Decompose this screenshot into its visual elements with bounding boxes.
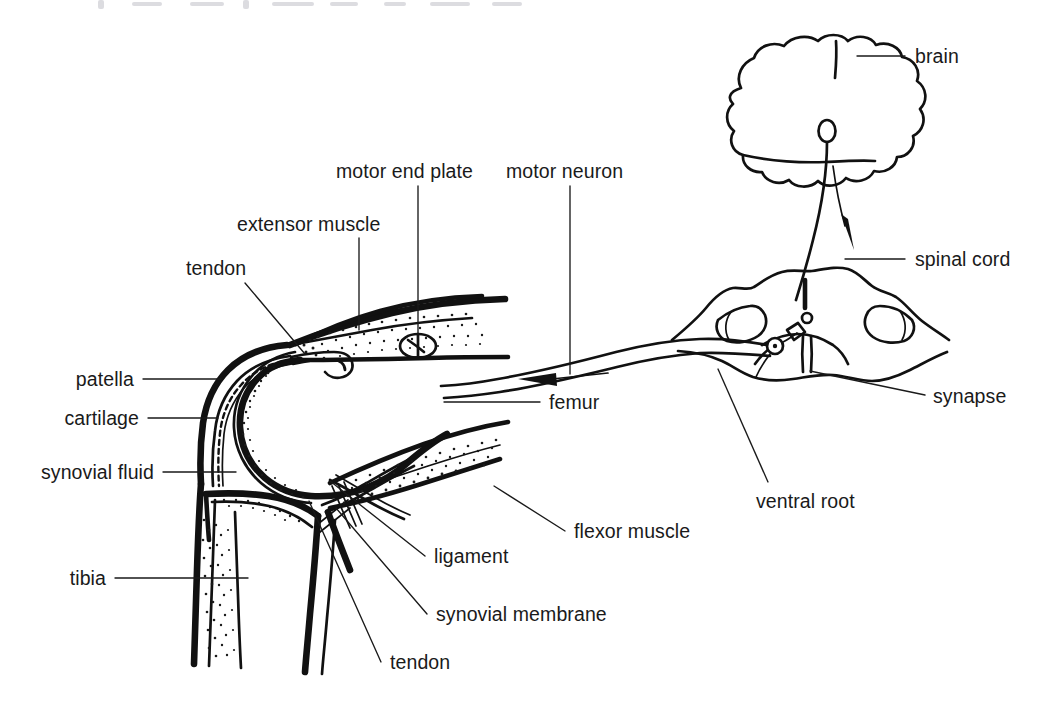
leader-tendon-bottom — [309, 501, 381, 662]
patellar-tendon-front — [305, 516, 335, 674]
label-ventral-root: ventral root — [756, 490, 855, 512]
descending-axon — [796, 142, 827, 300]
label-femur: femur — [549, 391, 600, 413]
leader-synapse — [810, 371, 925, 395]
label-extensor-muscle: extensor muscle — [237, 213, 380, 235]
anatomy-diagram: motor end plate motor neuron extensor mu… — [0, 0, 1052, 723]
label-cartilage: cartilage — [64, 407, 139, 429]
patellar-tendon-hook — [291, 352, 353, 378]
brain-neuron-soma — [819, 120, 836, 142]
label-motor-neuron: motor neuron — [506, 160, 623, 182]
label-flexor-muscle: flexor muscle — [574, 520, 690, 542]
label-motor-end-plate: motor end plate — [336, 160, 473, 182]
leader-flexor-muscle — [494, 486, 565, 531]
label-brain: brain — [915, 45, 959, 67]
label-tibia: tibia — [70, 567, 106, 589]
label-tendon-top: tendon — [186, 257, 246, 279]
label-synovial-fluid: synovial fluid — [41, 461, 154, 483]
label-synovial-membrane: synovial membrane — [436, 603, 607, 625]
motor-neuron-axon — [441, 339, 770, 398]
leader-ventral-root — [718, 369, 768, 482]
label-patella: patella — [76, 368, 134, 390]
label-spinal-cord: spinal cord — [915, 248, 1010, 270]
scan-bleed-artifact — [98, 0, 522, 9]
label-tendon-bottom: tendon — [390, 651, 450, 673]
impulse-direction-arrow — [833, 166, 854, 250]
label-ligament: ligament — [434, 545, 509, 567]
label-synapse: synapse — [933, 385, 1006, 407]
tibia-bone — [194, 484, 318, 668]
grey-matter-horns — [717, 280, 914, 372]
figure-page: motor end plate motor neuron extensor mu… — [0, 0, 1052, 723]
